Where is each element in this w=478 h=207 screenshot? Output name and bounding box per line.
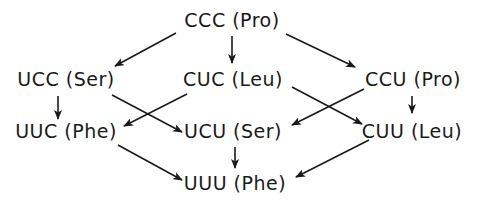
- node-uuu-phe: UUU (Phe): [184, 174, 286, 193]
- node-uuc-phe: UUC (Phe): [15, 122, 117, 141]
- edge-cuc-to-cuu-arrow: [292, 87, 362, 124]
- edge-ccc-to-ccu-arrow: [286, 34, 355, 67]
- edge-cuc-to-uuc-arrow: [124, 94, 187, 126]
- node-cuc-leu: CUC (Leu): [183, 70, 283, 89]
- edge-uuc-to-uuu-arrow: [118, 145, 182, 180]
- node-ucu-ser: UCU (Ser): [184, 122, 282, 141]
- edge-ccc-to-ucc-arrow: [115, 33, 176, 66]
- node-ccc-pro: CCC (Pro): [184, 11, 279, 30]
- node-ucc-ser: UCC (Ser): [17, 70, 114, 89]
- codon-lattice-diagram: CCC (Pro) UCC (Ser) CUC (Leu) CCU (Pro) …: [0, 0, 478, 207]
- edge-cuu-to-uuu-arrow: [296, 140, 369, 177]
- node-ccu-pro: CCU (Pro): [365, 70, 461, 89]
- node-cuu-leu: CUU (Leu): [362, 122, 462, 141]
